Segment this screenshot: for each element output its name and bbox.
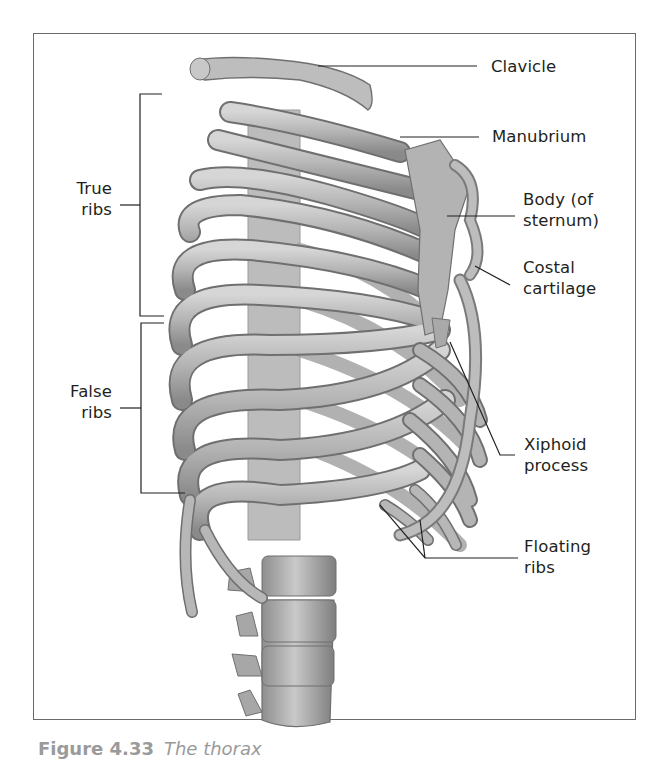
label-false-ribs-line2: ribs <box>62 402 112 423</box>
leader-costal-cartilage <box>475 266 510 285</box>
label-costal-cartilage: Costal cartilage <box>523 257 596 299</box>
label-costal-cartilage-line1: Costal <box>523 257 596 278</box>
label-body-of-sternum: Body (of sternum) <box>523 189 599 231</box>
label-true-ribs: True ribs <box>62 178 112 220</box>
figure-caption-text: The thorax <box>164 738 262 759</box>
label-floating-ribs-line2: ribs <box>524 557 591 578</box>
figure-caption-number: Figure 4.33 <box>38 738 154 759</box>
bracket-true-ribs <box>140 94 164 316</box>
label-body-of-sternum-line2: sternum) <box>523 210 599 231</box>
label-floating-ribs: Floating ribs <box>524 536 591 578</box>
label-false-ribs-line1: False <box>62 381 112 402</box>
label-true-ribs-line2: ribs <box>62 199 112 220</box>
label-costal-cartilage-line2: cartilage <box>523 278 596 299</box>
label-body-of-sternum-line1: Body (of <box>523 189 599 210</box>
figure-caption: Figure 4.33The thorax <box>38 738 262 759</box>
label-xiphoid-process: Xiphoid process <box>524 434 588 476</box>
label-false-ribs: False ribs <box>62 381 112 423</box>
label-manubrium: Manubrium <box>492 126 587 147</box>
label-xiphoid-process-line1: Xiphoid <box>524 434 588 455</box>
label-clavicle: Clavicle <box>491 56 556 77</box>
label-floating-ribs-line1: Floating <box>524 536 591 557</box>
label-true-ribs-line1: True <box>62 178 112 199</box>
clavicle-bone <box>190 58 372 111</box>
label-xiphoid-process-line2: process <box>524 455 588 476</box>
